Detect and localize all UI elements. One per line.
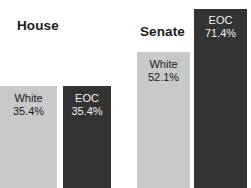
series-value-house-eoc: 35.4% — [63, 105, 111, 118]
series-name-senate-eoc: EOC — [194, 14, 247, 27]
group-label-house: House — [17, 18, 59, 33]
bar-senate-eoc: EOC 71.4% — [194, 9, 247, 188]
bar-house-eoc: EOC 35.4% — [63, 86, 111, 188]
series-value-house-white: 35.4% — [0, 105, 57, 118]
bar-house-white: White 35.4% — [0, 86, 57, 188]
series-value-senate-eoc: 71.4% — [194, 27, 247, 40]
bar-label-house-white: White 35.4% — [0, 92, 57, 117]
bar-label-house-eoc: EOC 35.4% — [63, 92, 111, 117]
series-name-house-eoc: EOC — [63, 92, 111, 105]
grouped-bar-chart: House Senate White 35.4% EOC 35.4% White… — [0, 0, 251, 188]
series-name-house-white: White — [0, 92, 57, 105]
bar-label-senate-eoc: EOC 71.4% — [194, 14, 247, 39]
bar-label-senate-white: White 52.1% — [137, 58, 190, 83]
bar-senate-white: White 52.1% — [137, 52, 190, 188]
series-value-senate-white: 52.1% — [137, 71, 190, 84]
group-label-senate: Senate — [140, 24, 185, 39]
series-name-senate-white: White — [137, 58, 190, 71]
